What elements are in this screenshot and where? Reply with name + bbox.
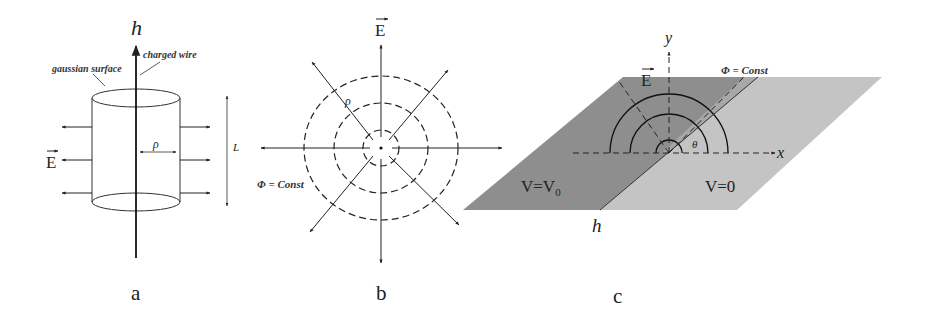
e-field-label: E [46, 151, 58, 172]
length-label: L [232, 141, 239, 153]
svg-text:E: E [375, 21, 385, 40]
h-axis-label-c: h [592, 215, 602, 236]
e-field-arrows-left [62, 127, 92, 193]
center-charge-dot [379, 146, 382, 149]
rho-label: ρ [152, 137, 159, 151]
panel-a-caption: a [131, 281, 141, 305]
charged-wire-label: charged wire [143, 49, 197, 60]
e-field-label-b: E [375, 19, 388, 40]
panel-b: E ρ Φ = Const b [257, 19, 502, 305]
y-axis-label: y [663, 29, 673, 47]
svg-text:E: E [46, 153, 56, 172]
left-region-label: V=V0 [521, 177, 561, 198]
rho-label-b: ρ [344, 94, 351, 108]
right-region-label: V=0 [705, 177, 735, 196]
h-axis-label: h [131, 15, 142, 40]
panel-b-caption: b [376, 281, 387, 305]
svg-text:E: E [641, 71, 651, 90]
figure-canvas: h charged wire gaussian surface ρ L E a [0, 0, 927, 317]
panel-c: y x h E Φ = Const θ V=V0 V=0 c [463, 29, 882, 308]
theta-label: θ [692, 138, 698, 150]
wire-leader-line [140, 62, 160, 75]
surface-leader-line [93, 74, 105, 86]
x-axis-label: x [776, 144, 784, 161]
svg-text:V=V0: V=V0 [521, 177, 561, 198]
radial-field-lines [261, 45, 502, 263]
panel-a: h charged wire gaussian surface ρ L E a [46, 15, 239, 305]
equipotential-label-b: Φ = Const [257, 178, 305, 190]
panel-c-caption: c [613, 284, 622, 308]
gaussian-surface-label: gaussian surface [51, 63, 122, 74]
e-field-arrows-right [180, 127, 210, 193]
equipotential-label-c: Φ = Const [721, 64, 769, 76]
